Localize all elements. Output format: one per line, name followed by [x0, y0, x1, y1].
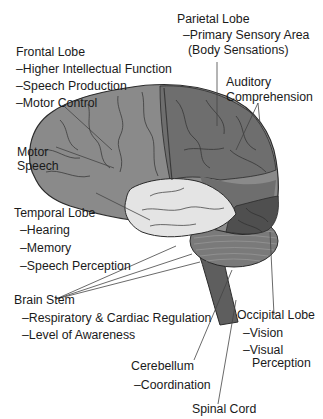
auditory-label-line1: Auditory	[226, 74, 271, 90]
temporal-lobe-label: Temporal Lobe	[14, 205, 95, 221]
auditory-label-line2: Comprehension	[226, 89, 313, 105]
spinal-cord-label: Spinal Cord	[192, 401, 256, 417]
frontal-lobe-label: Frontal Lobe	[16, 44, 85, 60]
brain-diagram: Frontal Lobe –Higher Intellectual Functi…	[0, 0, 323, 419]
temporal-function-1: –Hearing	[20, 222, 70, 238]
parietal-function-1: –Primary Sensory Area	[183, 27, 309, 43]
brain-stem-label: Brain Stem	[14, 292, 75, 308]
occipital-function-3: Perception	[252, 355, 311, 371]
parietal-function-2: (Body Sensations)	[188, 42, 288, 58]
frontal-function-2: –Speech Production	[16, 78, 127, 94]
brain-stem-function-1: –Respiratory & Cardiac Regulation	[22, 310, 211, 326]
cerebellum-label: Cerebellum	[131, 358, 194, 374]
temporal-function-2: –Memory	[20, 240, 71, 256]
occipital-lobe-label: Occipital Lobe	[237, 307, 315, 323]
parietal-lobe-label: Parietal Lobe	[177, 11, 249, 27]
cerebellum-function-1: –Coordination	[134, 377, 211, 393]
frontal-function-1: –Higher Intellectual Function	[16, 61, 172, 77]
brain-stem-function-2: –Level of Awareness	[22, 327, 135, 343]
occipital-function-1: –Vision	[243, 325, 283, 341]
frontal-function-3: –Motor Control	[16, 95, 97, 111]
temporal-function-3: –Speech Perception	[20, 258, 131, 274]
motor-speech-label-line2: Speech	[17, 158, 59, 174]
